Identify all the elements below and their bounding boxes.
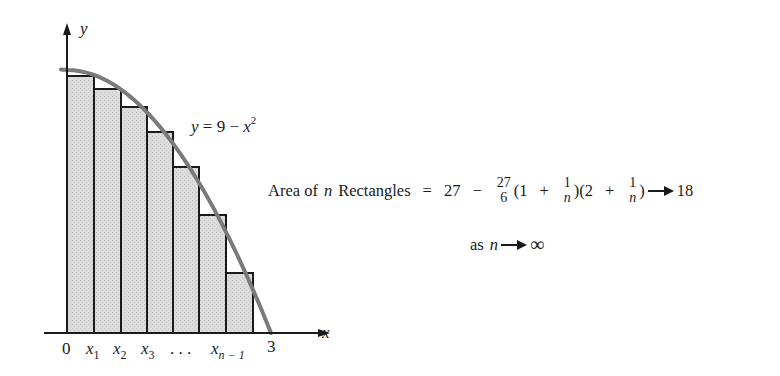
formula-prefix: Area of [268,181,318,201]
area-formula: Area of n Rectangles = 27 − 27 6 (1 + 1 … [268,176,693,205]
tick-label-three: 3 [267,338,276,355]
curve-label-eq: = [203,117,213,136]
tick-x1-sub: 1 [94,348,100,362]
infinity-symbol: ∞ [530,233,544,256]
formula-result: 18 [677,181,694,201]
right-arrow-icon [648,186,674,196]
formula-paren-2-close: ) [639,181,645,201]
x-axis-label: x [322,324,330,341]
fraction-numerator: 1 [563,176,572,191]
tick-x1-base: x [86,339,94,358]
fraction-27-over-6: 27 6 [496,176,512,205]
limit-n: n [490,235,498,255]
curve-equation-label: y = 9 − x2 [191,118,256,135]
curve-label-exponent: 2 [251,114,257,126]
right-arrow-icon [501,240,527,250]
curve-label-nine: 9 [217,117,226,136]
formula-equals: = [423,181,432,201]
curve-label-minus: − [229,117,239,136]
formula-n: n [324,181,332,201]
tick-x3-sub: 3 [149,348,155,362]
tick-x2-base: x [113,339,121,358]
fraction-numerator: 1 [628,176,637,191]
tick-x2-sub: 2 [121,348,127,362]
formula-constant: 27 [444,181,461,201]
formula-minus: − [472,181,481,201]
fraction-denominator: n [628,191,637,206]
riemann-sum-figure: y x y = 9 − x2 0 x1 x2 x3 . . . xn − 1 3… [0,0,780,376]
fraction-denominator: 6 [499,191,508,206]
tick-x3-base: x [141,339,149,358]
rectangle-6 [199,215,226,333]
tick-label-x1: x1 [86,340,100,357]
y-axis-arrow-icon [63,23,71,35]
limit-statement: as n ∞ [470,233,544,256]
curve-label-y: y [191,117,199,136]
tick-xn1-sub: n − 1 [219,348,245,362]
formula-paren-2-open: )(2 [574,181,593,201]
y-axis-label: y [80,20,88,37]
tick-label-xn-minus-1: xn − 1 [211,340,245,357]
tick-label-x3: x3 [141,340,155,357]
fraction-numerator: 27 [496,176,512,191]
fraction-1-over-n-a: 1 n [563,176,572,205]
formula-plus-2: + [605,181,614,201]
riemann-rectangles [67,76,253,333]
tick-label-ellipsis: . . . [170,340,191,357]
fraction-denominator: n [563,191,572,206]
tick-label-x2: x2 [113,340,127,357]
limit-as: as [470,235,484,255]
formula-suffix: Rectangles [338,181,410,201]
rectangle-1 [67,76,94,333]
rectangle-2 [94,89,121,333]
curve-label-x: x [243,117,251,136]
tick-xn1-base: x [211,339,219,358]
tick-label-zero: 0 [62,340,71,357]
rectangle-4 [147,132,173,333]
fraction-1-over-n-b: 1 n [628,176,637,205]
rectangle-3 [121,107,147,333]
rectangle-5 [173,167,199,333]
formula-paren-1-open: (1 [514,181,528,201]
formula-plus-1: + [539,181,548,201]
